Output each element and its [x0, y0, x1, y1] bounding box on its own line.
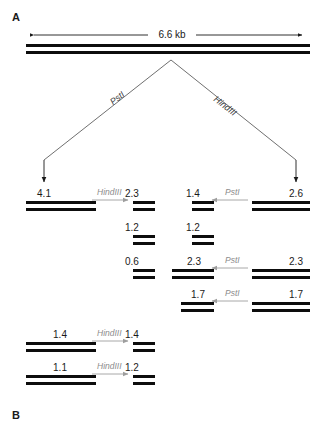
fragment-label-4-1: 4.1 [20, 188, 68, 199]
dna-strand-top [26, 342, 96, 345]
enzyme-label-hindiii-1-4: HindIII [97, 329, 122, 338]
product-label-1-2: 1.2 [125, 222, 151, 233]
dna-strand-top [133, 269, 155, 272]
dna-strand-bottom [26, 51, 310, 54]
enzyme-label-hindiii-1-1: HindIII [97, 362, 122, 371]
dna-strand-bottom [192, 242, 214, 245]
product-label-1-2-from-2-6: 1.2 [186, 222, 212, 233]
product-label-1-7-uncut: 1.7 [182, 289, 214, 300]
dna-strand-top [181, 302, 214, 305]
dna-strand-top [133, 342, 155, 345]
product-label-1-4-from-2-6: 1.4 [186, 188, 212, 199]
branch-lines [44, 60, 296, 160]
enzyme-label-psti-2-3: PstI [225, 256, 240, 265]
enzyme-label-hindiii-4-1: HindIII [97, 188, 122, 197]
dna-strand-top [133, 201, 155, 204]
product-label-2-3: 2.3 [125, 188, 151, 199]
dna-strand-bottom [26, 382, 96, 385]
dna-strand-top [172, 269, 214, 272]
product-label-1-2-from-1-1: 1.2 [125, 362, 151, 373]
dna-strand-bottom [252, 276, 310, 279]
dna-strand-bottom [133, 276, 155, 279]
dna-strand-top [26, 201, 96, 204]
dna-strand-bottom [172, 276, 214, 279]
dna-strand-top [26, 44, 310, 47]
fragment-label-2-6: 2.6 [272, 188, 320, 199]
dna-strand-top [192, 201, 214, 204]
fragment-label-2-3: 2.3 [272, 256, 320, 267]
dna-strand-top [252, 302, 310, 305]
product-label-1-4: 1.4 [125, 329, 151, 340]
scale-bar-label: 6.6 kb [148, 29, 196, 40]
dna-strand-bottom [133, 382, 155, 385]
enzyme-label-psti-1-7: PstI [225, 289, 240, 298]
enzyme-label-psti-2-6: PstI [225, 188, 240, 197]
dna-strand-bottom [26, 208, 96, 211]
product-label-0-6: 0.6 [125, 256, 151, 267]
dna-strand-bottom [133, 208, 155, 211]
dna-strand-bottom [133, 242, 155, 245]
dna-strand-top [133, 375, 155, 378]
fragment-label-1-1: 1.1 [36, 362, 84, 373]
restriction-map-figure: A B [0, 0, 336, 432]
dna-strand-top [133, 235, 155, 238]
dna-strand-bottom [133, 349, 155, 352]
product-label-2-3-uncut: 2.3 [175, 256, 213, 267]
fragment-label-1-7: 1.7 [272, 289, 320, 300]
dna-strand-bottom [181, 309, 214, 312]
dna-strand-bottom [192, 208, 214, 211]
dna-strand-top [26, 375, 96, 378]
dna-strand-top [252, 201, 310, 204]
dna-strand-bottom [252, 309, 310, 312]
fragment-label-1-4: 1.4 [36, 329, 84, 340]
dna-strand-bottom [252, 208, 310, 211]
dna-strand-top [252, 269, 310, 272]
dna-strand-top [192, 235, 214, 238]
dna-strand-bottom [26, 349, 96, 352]
